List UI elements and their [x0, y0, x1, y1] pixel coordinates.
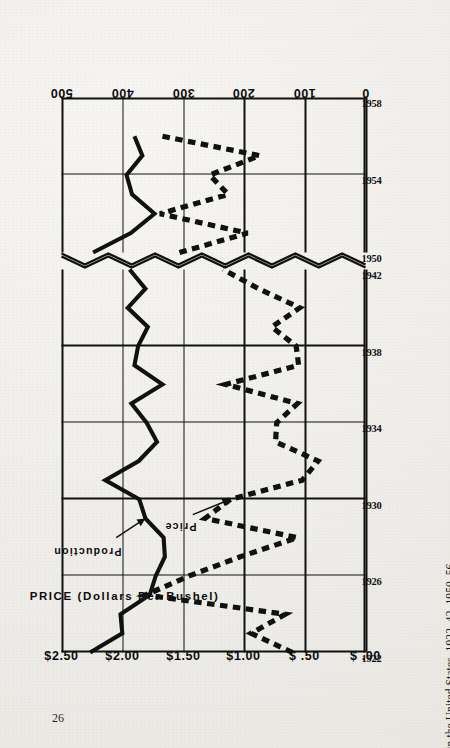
production-tick-label: 100 [293, 85, 316, 99]
year-tick-label: 1954 [361, 175, 381, 186]
figure-chart: $2.50$2.00$1.50$1.00$ .50$ .00 500400300… [34, 82, 395, 652]
price-tick-label: $1.50 [166, 648, 200, 662]
figure-caption-text: Potato prices and production in the Unit… [444, 561, 450, 748]
year-tick-label: 1950 [361, 252, 381, 263]
year-tick-label: 1926 [361, 575, 381, 586]
production-tick-label: 400 [111, 85, 134, 99]
year-tick-label: 1958 [361, 97, 381, 108]
price-tick-label: $2.50 [44, 648, 78, 662]
production-series-label: Production [53, 545, 121, 557]
production-line [90, 136, 165, 652]
production-tick-label: 500 [50, 85, 73, 99]
figure-caption: Figure 5. Potato prices and production i… [444, 561, 450, 748]
year-tick-label: 1930 [361, 499, 381, 510]
page-number: 26 [52, 711, 64, 726]
price-tick-label: $2.00 [105, 648, 139, 662]
production-annotation-arrow [136, 518, 145, 526]
scanned-page: $2.50$2.00$1.50$1.00$ .50$ .00 500400300… [0, 0, 450, 748]
production-tick-label: 200 [233, 85, 256, 99]
year-tick-label: 1934 [361, 422, 381, 433]
year-tick-label: 1942 [361, 269, 381, 280]
series-plot [34, 82, 395, 652]
price-axis-title: PRICE (Dollars Per Bushel) [30, 589, 220, 601]
year-tick-label: 1922 [361, 652, 381, 663]
production-tick-label: 300 [172, 85, 195, 99]
price-series-label: Price [164, 520, 196, 532]
price-tick-label: $1.00 [227, 648, 261, 662]
price-line [145, 136, 318, 652]
year-tick-label: 1938 [361, 346, 381, 357]
price-tick-label: $ .50 [289, 648, 320, 662]
